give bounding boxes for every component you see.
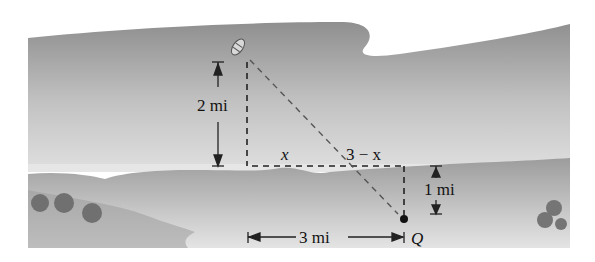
point-q-marker [400, 215, 408, 223]
label-1mi: 1 mi [424, 181, 455, 198]
label-x: x [281, 146, 289, 163]
label-3-minus-x: 3 − x [346, 146, 381, 163]
label-q: Q [411, 230, 423, 247]
diagram-canvas [0, 0, 595, 262]
label-2mi: 2 mi [197, 97, 228, 114]
water-region [28, 22, 570, 168]
label-3mi: 3 mi [299, 229, 330, 246]
